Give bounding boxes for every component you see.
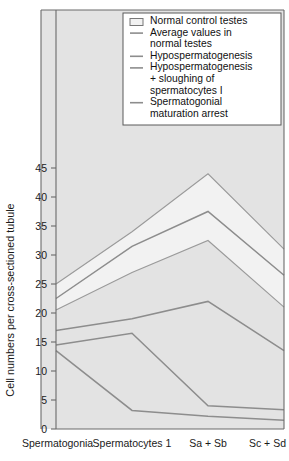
y-tick-label: 5 <box>41 394 47 406</box>
x-axis-category-label: Spermatogonia <box>22 437 93 449</box>
legend-entry-label: spermatocytes I <box>150 85 223 96</box>
y-tick-label: 20 <box>35 307 47 319</box>
y-tick-label: 15 <box>35 336 47 348</box>
y-tick-label: 30 <box>35 249 47 261</box>
x-axis-category-label: Sc + Sd <box>249 437 286 449</box>
legend-entry-label: Hypospermatogenesis <box>150 50 252 61</box>
line-chart: 051015202530354045 SpermatogoniaSpermato… <box>0 0 289 461</box>
y-tick-label: 25 <box>35 278 47 290</box>
y-tick-label: 45 <box>35 162 47 174</box>
legend-entry-label: + sloughing of <box>150 73 215 84</box>
y-axis-title: Cell numbers per cross-sectioned tubule <box>4 203 16 396</box>
x-axis-category-label: Sa + Sb <box>189 437 227 449</box>
legend-swatch-normal-control <box>130 19 143 26</box>
chart-figure: 051015202530354045 SpermatogoniaSpermato… <box>0 0 289 461</box>
legend-entry-label: Average values in <box>150 27 232 38</box>
x-axis-labels: SpermatogoniaSpermatocytes 1Sa + SbSc + … <box>22 437 286 449</box>
y-tick-label: 40 <box>35 191 47 203</box>
legend-entry-label: normal testes <box>150 38 212 49</box>
chart-legend: Normal control testesAverage values inno… <box>123 13 281 125</box>
x-axis-category-label: Spermatocytes 1 <box>93 437 172 449</box>
y-tick-label: 0 <box>41 423 47 435</box>
legend-entry-label: Spermatogonial <box>150 96 222 107</box>
y-tick-label: 35 <box>35 220 47 232</box>
y-tick-label: 10 <box>35 365 47 377</box>
legend-entry-label: Normal control testes <box>150 15 247 26</box>
legend-entry-label: maturation arrest <box>150 108 228 119</box>
legend-entry-label: Hypospermatogenesis <box>150 61 252 72</box>
